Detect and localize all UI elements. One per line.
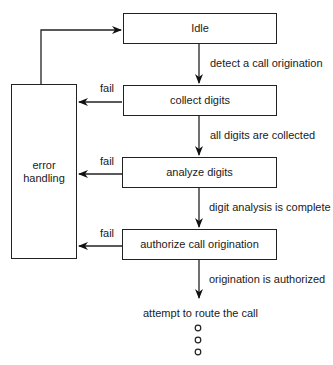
- continuation-dot: [195, 349, 201, 355]
- continuation-dot: [195, 337, 201, 343]
- state-label: collect digits: [170, 94, 230, 107]
- error-label-line1: error: [32, 159, 55, 172]
- transition-label: digit analysis is complete: [209, 201, 331, 213]
- state-analyze-digits: analyze digits: [122, 157, 277, 188]
- state-collect-digits: collect digits: [123, 85, 277, 116]
- state-idle: Idle: [123, 13, 277, 44]
- state-label: Idle: [191, 22, 209, 35]
- fail-label: fail: [100, 82, 114, 94]
- fail-label: fail: [100, 227, 114, 239]
- return-to-idle-arrow: [41, 30, 121, 84]
- transition-label: detect a call origination: [210, 57, 323, 69]
- transition-label: origination is authorized: [209, 273, 325, 285]
- transition-label: all digits are collected: [210, 129, 315, 141]
- error-label-line2: handling: [23, 172, 65, 185]
- state-authorize-call-origination: authorize call origination: [122, 229, 277, 260]
- fail-label: fail: [100, 155, 114, 167]
- state-label: authorize call origination: [140, 238, 259, 251]
- continuation-dot: [195, 325, 201, 331]
- error-handling-box: error handling: [11, 84, 77, 259]
- state-label: analyze digits: [166, 166, 233, 179]
- final-step-label: attempt to route the call: [143, 307, 258, 319]
